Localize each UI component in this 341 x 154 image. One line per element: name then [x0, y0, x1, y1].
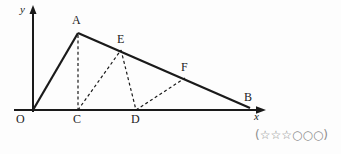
- point-label-B: B: [244, 91, 252, 103]
- point-label-E: E: [117, 33, 124, 45]
- figure-page: O A B C D E F y x (☆☆☆○○○): [0, 0, 341, 154]
- point-label-C: C: [73, 113, 81, 125]
- segment-ED: [121, 50, 136, 110]
- x-axis-label: x: [254, 111, 259, 122]
- point-label-D: D: [131, 113, 140, 125]
- point-label-O: O: [16, 113, 25, 125]
- y-axis-label: y: [20, 4, 25, 15]
- y-axis-arrow-icon: [30, 5, 37, 14]
- segment-CE: [78, 50, 121, 110]
- point-label-A: A: [72, 14, 81, 26]
- point-label-F: F: [181, 61, 188, 73]
- rating-stars: (☆☆☆○○○): [255, 129, 328, 141]
- segment-OA: [33, 33, 78, 110]
- segment-AB: [78, 33, 250, 108]
- segment-DF: [136, 78, 185, 110]
